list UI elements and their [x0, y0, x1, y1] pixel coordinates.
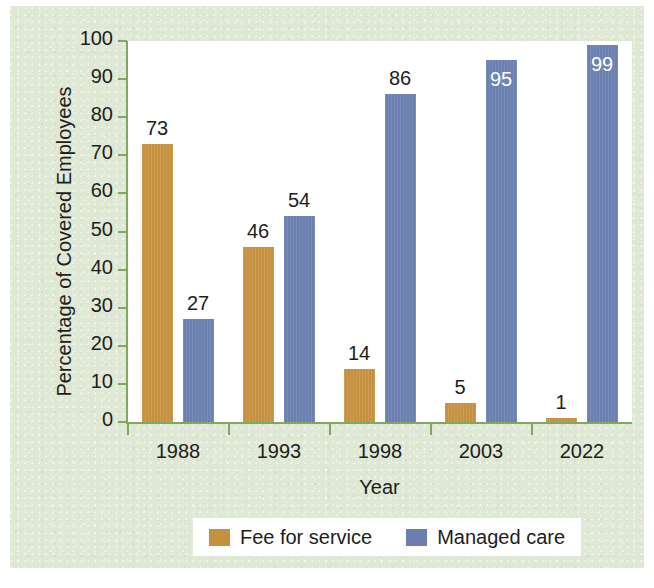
x-tick-mark	[127, 424, 129, 435]
y-tick-mark	[118, 231, 127, 233]
bar-value-label: 99	[562, 53, 642, 76]
y-tick-label: 100	[50, 27, 113, 50]
bar-fee-for-service-2003	[445, 403, 476, 422]
x-tick-label: 1988	[128, 440, 228, 463]
x-tick-mark	[228, 424, 230, 435]
y-tick-mark	[118, 383, 127, 385]
bar-value-label: 27	[158, 292, 238, 315]
y-tick-label: 20	[50, 332, 113, 355]
bar-value-label: 54	[259, 189, 339, 212]
y-tick-label: 30	[50, 294, 113, 317]
bar-managed-care-1998	[385, 94, 416, 422]
x-tick-label: 2022	[532, 440, 632, 463]
y-tick-label: 40	[50, 256, 113, 279]
x-tick-mark	[531, 424, 533, 435]
bar-managed-care-2022	[587, 45, 618, 422]
bar-fee-for-service-1998	[344, 369, 375, 422]
legend-label: Fee for service	[240, 526, 372, 549]
y-axis-line	[126, 41, 128, 424]
y-tick-label: 0	[50, 408, 113, 431]
y-tick-label: 50	[50, 218, 113, 241]
y-tick-mark	[118, 269, 127, 271]
y-tick-mark	[118, 307, 127, 309]
y-tick-mark	[118, 421, 127, 423]
bar-fee-for-service-1988	[142, 144, 173, 422]
legend-swatch-icon	[406, 529, 427, 546]
chart-figure: Percentage of Covered Employees Year 010…	[0, 0, 654, 588]
chart-panel: Percentage of Covered Employees Year 010…	[10, 6, 644, 568]
bar-value-label: 73	[117, 117, 197, 140]
y-tick-label: 80	[50, 103, 113, 126]
y-tick-label: 10	[50, 370, 113, 393]
y-tick-mark	[118, 154, 127, 156]
x-tick-mark	[329, 424, 331, 435]
y-tick-mark	[118, 345, 127, 347]
legend-item[interactable]: Fee for service	[209, 526, 372, 549]
y-tick-label: 70	[50, 141, 113, 164]
x-axis-line	[126, 422, 632, 424]
x-tick-label: 1993	[229, 440, 329, 463]
bar-value-label: 95	[461, 68, 541, 91]
bar-fee-for-service-2022	[546, 418, 577, 422]
bar-managed-care-2003	[486, 60, 517, 422]
y-tick-mark	[118, 192, 127, 194]
x-axis-title: Year	[127, 476, 632, 499]
y-tick-mark	[118, 78, 127, 80]
bar-managed-care-1988	[183, 319, 214, 422]
y-tick-mark	[118, 40, 127, 42]
chart-legend: Fee for serviceManaged care	[193, 518, 581, 556]
x-tick-label: 1998	[330, 440, 430, 463]
bar-managed-care-1993	[284, 216, 315, 422]
bar-fee-for-service-1993	[243, 247, 274, 422]
y-tick-label: 90	[50, 65, 113, 88]
y-tick-label: 60	[50, 179, 113, 202]
legend-item[interactable]: Managed care	[406, 526, 565, 549]
x-tick-label: 2003	[431, 440, 531, 463]
legend-swatch-icon	[209, 529, 230, 546]
legend-label: Managed care	[437, 526, 565, 549]
bar-value-label: 86	[360, 67, 440, 90]
x-tick-mark	[430, 424, 432, 435]
